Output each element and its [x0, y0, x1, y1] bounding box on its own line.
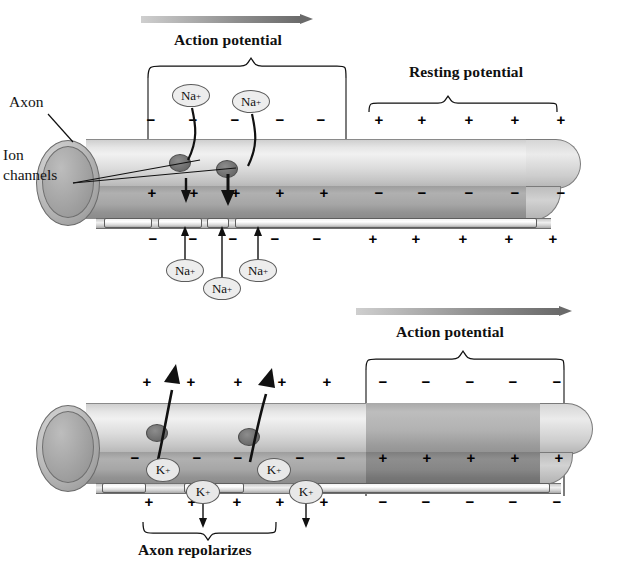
axon-repolarizes-caption: Axon repolarizes — [138, 541, 252, 559]
axon-repolarizes-bracket — [0, 290, 626, 575]
figure-canvas: Action potential Resting potential — [0, 0, 626, 575]
depolarization-panel: Action potential Resting potential — [0, 0, 626, 290]
ion-channels-leader-lines — [0, 0, 626, 290]
repolarization-panel: Action potential — [0, 290, 626, 575]
